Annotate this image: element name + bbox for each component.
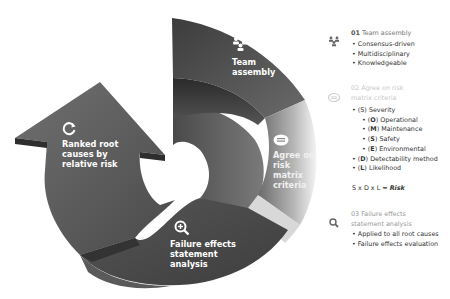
list-item: (L) Likelihood	[352, 164, 438, 174]
list-item: Consensus-driven	[352, 40, 415, 50]
list-item: Multidisciplinary	[352, 50, 415, 60]
list-item: (S) Severity	[352, 106, 438, 116]
segment-label-agree: Agree on risk matrix criteria	[273, 150, 320, 190]
risk-cycle-diagram: Team assembly Agree on risk matrix crite…	[0, 0, 320, 299]
list-item: (S) Safety	[352, 135, 438, 145]
list-item: (E) Environmental	[352, 145, 438, 155]
step1-heading: 01 Team assembly	[351, 29, 411, 39]
magnifier-plus-icon	[174, 220, 190, 240]
list-item: (O) Operational	[352, 116, 438, 126]
list-item: Applied to all root causes	[352, 230, 439, 240]
step2-list: (S) Severity (O) Operational (M) Mainten…	[352, 106, 438, 174]
chat-icon	[273, 132, 289, 150]
list-item: (D) Detectability method	[352, 155, 438, 165]
step3-list: Applied to all root causes Failure effec…	[352, 230, 439, 249]
step1-list: Consensus-driven Multidisciplinary Knowl…	[352, 40, 415, 69]
refresh-icon	[62, 121, 77, 140]
segment-label-failure: Failure effects statement analysis	[170, 239, 236, 269]
legend-panel: 01 Team assembly Consensus-driven Multid…	[325, 0, 450, 299]
step2-heading: 02 Agree on risk matrix criteria	[351, 84, 403, 103]
magnifier-icon-small	[329, 213, 339, 232]
segment-label-team: Team assembly	[232, 57, 275, 77]
inner-wall	[173, 107, 264, 215]
chat-icon-small	[328, 87, 340, 106]
step3-heading: 03 Failure effects statement analysis	[351, 210, 412, 229]
risk-formula: S x D x L = Risk	[352, 184, 405, 192]
segment-label-ranked: Ranked root causes by relative risk	[62, 139, 118, 169]
list-item: (M) Maintenance	[352, 125, 438, 135]
list-item: Failure effects evaluation	[352, 240, 439, 250]
team-icon	[232, 36, 250, 56]
list-item: Knowledgeable	[352, 59, 415, 69]
team-icon-small	[328, 32, 340, 51]
cycle-arrow-graphic	[0, 0, 320, 299]
